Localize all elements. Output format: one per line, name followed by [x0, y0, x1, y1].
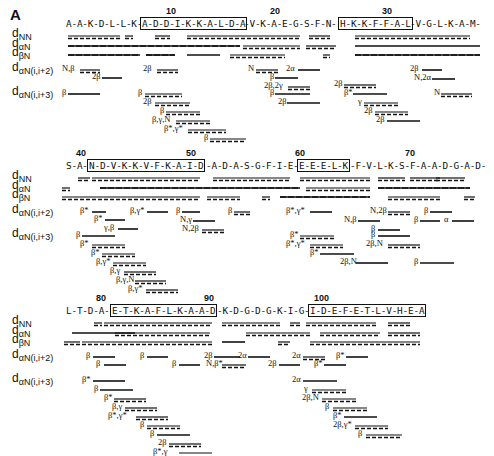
nOe-label: 2β: [143, 96, 152, 106]
nOe-label: β: [424, 205, 428, 215]
nOe-label: 2β,N: [340, 256, 357, 266]
sequence-segment: -V-K-A-E-G-S-F-N-: [244, 18, 337, 29]
sequence-segment: S-A-: [66, 160, 88, 171]
nOe-label: β: [140, 419, 144, 429]
row-label: dαN(i,i+3): [12, 84, 53, 100]
row-label: dαN(i,i+3): [12, 371, 53, 387]
sequence-segment: A-A-K-D-L-L-K-: [66, 18, 142, 29]
nOe-label: β: [140, 350, 144, 360]
residue-number: 40: [76, 148, 86, 158]
residue-number: 80: [96, 293, 106, 303]
nOe-label: N: [248, 63, 254, 73]
nOe-label: β: [96, 358, 100, 368]
nOe-label: β,γ*: [128, 283, 142, 293]
residue-number: 20: [270, 6, 280, 16]
row-label: dβN: [12, 332, 30, 348]
sequence-segment: -V-G-L-K-A-M-: [410, 18, 481, 29]
nOe-label: γ: [358, 96, 362, 106]
nOe-label: β*,γ: [153, 446, 167, 456]
residue-number: 30: [382, 6, 392, 16]
nOe-label: N,2α: [414, 72, 431, 82]
nOe-label: 2β: [92, 71, 101, 81]
nOe-label: β*: [344, 87, 353, 97]
nOe-label: β: [86, 350, 90, 360]
helix-box: E-T-K-A-F-L-K-A-A-D: [110, 304, 217, 317]
nOe-label: 2β: [143, 63, 152, 73]
nOe-label: 2β,γ*: [333, 419, 352, 429]
nOe-label: β: [172, 358, 176, 368]
nOe-label: β*: [82, 374, 91, 384]
sequence-segment: L-T-D-A-: [66, 305, 110, 316]
nOe-label: β*,γ*: [164, 123, 183, 133]
residue-number: 10: [166, 6, 176, 16]
nOe-label: N,2β: [182, 223, 199, 233]
sequence-segment: -K-D-G-D-G-K-I-G-: [217, 305, 310, 316]
nOe-label: β: [62, 87, 66, 97]
row-label: dαN(i,i+2): [12, 347, 53, 363]
residue-number: 100: [314, 293, 329, 303]
nOe-label: β*: [336, 350, 345, 360]
nOe-label: N,β: [62, 63, 75, 73]
residue-number: 70: [405, 148, 415, 158]
row-label: dαN(i,i+2): [12, 60, 53, 76]
nOe-label: β: [204, 132, 208, 142]
nOe-label: β: [325, 401, 329, 411]
nOe-label: β: [358, 428, 362, 438]
nOe-label: 2β: [364, 105, 373, 115]
nOe-label: β*: [94, 213, 103, 223]
nOe-label: β: [228, 205, 232, 215]
nOe-label: β,γ*: [130, 205, 144, 215]
nOe-label: 2β,N: [302, 392, 319, 402]
helix-box: N-D-V-K-K-V-F-K-A-I-D: [87, 159, 205, 172]
nOe-label: β*: [80, 238, 89, 248]
row-label: dβN: [12, 187, 30, 203]
nOe-label: β*: [314, 358, 323, 368]
nOe-label: β: [94, 383, 98, 393]
nOe-label: 2α: [292, 374, 301, 384]
nOe-label: N: [434, 87, 440, 97]
nOe-label: β*: [310, 247, 319, 257]
residue-number: 60: [295, 148, 305, 158]
nOe-label: N,β*: [206, 358, 223, 368]
nOe-label: 2β: [268, 358, 277, 368]
helix-box: E-E-E-L-K: [297, 159, 350, 172]
nOe-label: β*: [80, 205, 89, 215]
nOe-label: N,2β: [370, 205, 387, 215]
residue-number: 50: [186, 148, 196, 158]
nOe-label: β*,γ*: [108, 410, 127, 420]
nOe-label: 2α: [286, 63, 295, 73]
sequence-segment: -A-D-A-S-G-F-I-E-: [206, 160, 299, 171]
nOe-label: β*,γ*: [286, 238, 305, 248]
nOe-label: β: [270, 87, 274, 97]
nOe-label: β,γ*: [96, 256, 110, 266]
nOe-label: β: [414, 214, 418, 224]
nOe-label: 2α: [238, 350, 247, 360]
row-label: dαN(i,i+2): [12, 202, 53, 218]
row-label: dβN: [12, 45, 30, 61]
nOe-label: N,β: [344, 214, 357, 224]
helix-box: A-D-D-I-K-K-A-L-D-A: [140, 17, 247, 30]
nOe-label: β: [414, 256, 418, 266]
nOe-label: γ,β: [104, 222, 114, 232]
nOe-label: 2β: [334, 78, 343, 88]
nOe-label: β: [150, 428, 154, 438]
nOe-label: β*,γ*: [286, 205, 305, 215]
nOe-label: α: [444, 214, 448, 224]
nOe-label: 2β: [376, 114, 385, 124]
nOe-label: 2α: [292, 350, 301, 360]
nOe-label: 2β: [278, 96, 287, 106]
helix-box: I-D-E-F-E-T-L-V-H-E-A: [308, 304, 426, 317]
helix-box: H-K-K-F-F-A-L: [338, 17, 413, 30]
nOe-label: 2β,N: [366, 238, 383, 248]
row-label: dαN(i,i+3): [12, 226, 53, 242]
nOe-label: β: [138, 87, 142, 97]
sequence-segment: -F-V-L-K-S-F-A-A-D-G-A-D-: [350, 160, 486, 171]
residue-number: 90: [204, 293, 214, 303]
